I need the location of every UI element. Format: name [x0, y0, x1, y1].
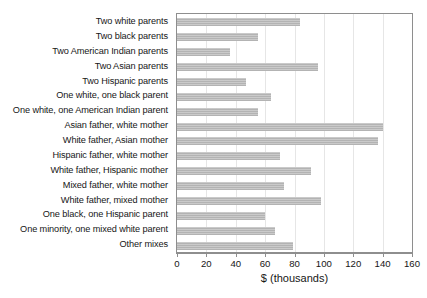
bars-container [177, 14, 412, 252]
x-axis-tick-label: 60 [260, 258, 271, 269]
bar [177, 78, 246, 86]
y-axis-tick-label: Hispanic father, white mother [0, 148, 172, 163]
bar-chart: Two white parentsTwo black parentsTwo Am… [0, 0, 427, 298]
bar [177, 48, 230, 56]
x-axis-tick-label: 0 [174, 258, 179, 269]
x-axis-tick-label: 100 [316, 258, 332, 269]
plot-area [176, 13, 413, 253]
bar [177, 182, 284, 190]
y-axis-category-labels: Two white parentsTwo black parentsTwo Am… [0, 14, 172, 252]
y-axis-tick-label: One white, one American Indian parent [0, 103, 172, 118]
x-axis-tick [177, 253, 178, 257]
bar-row [177, 208, 412, 223]
y-axis-tick-label: White father, mixed mother [0, 193, 172, 208]
bar [177, 212, 265, 220]
x-axis-title: $ (thousands) [176, 272, 413, 284]
x-axis-tick [295, 253, 296, 257]
bar-row [177, 194, 412, 209]
y-axis-tick-label: Other mixes [0, 237, 172, 252]
bar-row [177, 60, 412, 75]
bar-row [177, 104, 412, 119]
bar [177, 197, 321, 205]
y-axis-tick-label: White father, Asian mother [0, 133, 172, 148]
bar-row [177, 179, 412, 194]
bar-row [177, 164, 412, 179]
bar-row [177, 30, 412, 45]
x-axis-tick-label: 140 [375, 258, 391, 269]
x-axis-tick-label: 20 [201, 258, 212, 269]
bar [177, 93, 271, 101]
bar-row [177, 238, 412, 253]
bar-row [177, 119, 412, 134]
x-axis-tick [383, 253, 384, 257]
bar-row [177, 15, 412, 30]
x-axis-tick [412, 253, 413, 257]
x-axis-tick-label: 40 [230, 258, 241, 269]
x-axis-tick [236, 253, 237, 257]
bar [177, 167, 311, 175]
bar-row [177, 134, 412, 149]
x-axis-tick [353, 253, 354, 257]
bar-row [177, 149, 412, 164]
y-axis-tick-label: Two Asian parents [0, 59, 172, 74]
bar-row [177, 45, 412, 60]
y-axis-tick-label: One white, one black parent [0, 88, 172, 103]
x-axis-tick [206, 253, 207, 257]
y-axis-tick-label: One minority, one mixed white parent [0, 222, 172, 237]
bar-row [177, 75, 412, 90]
bar [177, 18, 300, 26]
bar [177, 227, 275, 235]
bar-row [177, 89, 412, 104]
y-axis-tick-label: Two black parents [0, 29, 172, 44]
bar [177, 242, 293, 250]
bar-row [177, 223, 412, 238]
y-axis-tick-label: Asian father, white mother [0, 118, 172, 133]
y-axis-tick-label: Two white parents [0, 14, 172, 29]
bar [177, 108, 258, 116]
y-axis-tick-label: One black, one Hispanic parent [0, 207, 172, 222]
x-axis-tick-label: 120 [345, 258, 361, 269]
y-axis-tick-label: Two American Indian parents [0, 44, 172, 59]
bar [177, 123, 383, 131]
y-axis-tick-label: Two Hispanic parents [0, 74, 172, 89]
bar [177, 33, 258, 41]
bar [177, 137, 378, 145]
x-axis-tick [324, 253, 325, 257]
bar [177, 63, 318, 71]
bar [177, 152, 280, 160]
x-axis: 020406080100120140160 [176, 253, 413, 254]
x-axis-tick-label: 160 [404, 258, 420, 269]
x-axis-tick-label: 80 [289, 258, 300, 269]
y-axis-tick-label: Mixed father, white mother [0, 178, 172, 193]
y-axis-tick-label: White father, Hispanic mother [0, 163, 172, 178]
x-axis-tick [265, 253, 266, 257]
